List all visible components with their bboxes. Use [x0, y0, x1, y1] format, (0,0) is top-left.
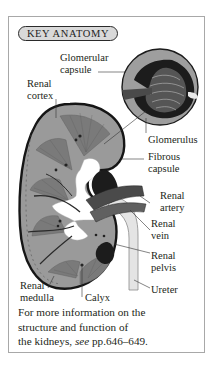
- glomerulus-inset: [122, 49, 198, 125]
- label-renal-pelvis: Renal pelvis: [151, 250, 176, 274]
- label-renal-vein: Renal vein: [151, 218, 176, 242]
- label-fibrous-capsule: Fibrous capsule: [148, 151, 180, 175]
- label-renal-medulla: Renal medulla: [20, 280, 54, 304]
- label-glomerular-capsule: Glomerular capsule: [60, 52, 108, 76]
- caption: For more information on the structure an…: [18, 305, 198, 349]
- label-calyx: Calyx: [85, 292, 110, 304]
- label-renal-artery: Renal artery: [160, 190, 185, 214]
- label-ureter: Ureter: [151, 284, 178, 296]
- label-renal-cortex: Renal cortex: [27, 78, 53, 102]
- label-glomerulus: Glomerulus: [148, 134, 198, 146]
- page-reference: pp.646–649.: [89, 335, 148, 347]
